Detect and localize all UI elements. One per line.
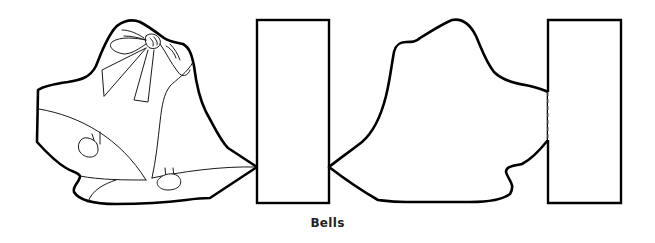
center-fold-tab bbox=[257, 20, 329, 203]
end-glue-tab bbox=[548, 20, 621, 203]
bell-back-silhouette bbox=[329, 20, 548, 202]
decorated-bell-front bbox=[37, 20, 257, 204]
bell-front-outline bbox=[37, 20, 257, 204]
craft-template bbox=[0, 0, 655, 243]
template-caption: Bells bbox=[0, 216, 655, 230]
